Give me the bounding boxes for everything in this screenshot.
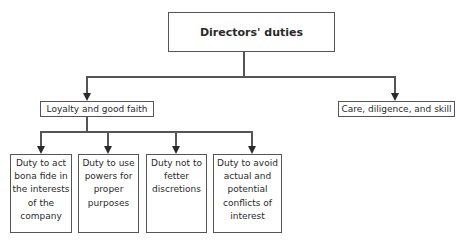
level2-bar [40, 131, 252, 133]
proper-purposes-node: Duty to use powers for proper purposes [78, 154, 139, 233]
loyalty-stem [86, 116, 88, 131]
leaf3-drop [251, 131, 253, 146]
conflicts-node: Duty to avoid actual and potential confl… [213, 154, 282, 233]
arrow-down-icon [104, 146, 112, 154]
care-label: Care, diligence, and skill [341, 104, 451, 114]
root-label: Directors' duties [200, 26, 303, 39]
leaf0-drop [40, 131, 42, 146]
leaf2-drop [175, 131, 177, 146]
loyalty-drop [86, 76, 88, 94]
arrow-down-icon [83, 93, 91, 101]
conflicts-label: Duty to avoid actual and potential confl… [214, 157, 281, 223]
loyalty-label: Loyalty and good faith [47, 104, 148, 114]
care-node: Care, diligence, and skill [338, 101, 455, 117]
proper-purposes-label: Duty to use powers for proper purposes [79, 157, 138, 210]
loyalty-node: Loyalty and good faith [40, 101, 154, 117]
arrow-down-icon [37, 146, 45, 154]
arrow-down-icon [248, 146, 256, 154]
bona-fide-label: Duty to act bona fide in the interests o… [11, 157, 71, 223]
root-node: Directors' duties [168, 12, 335, 52]
root-stem [243, 51, 245, 76]
fetter-discretions-label: Duty not to fetter discretions [147, 157, 206, 197]
bona-fide-node: Duty to act bona fide in the interests o… [10, 154, 72, 233]
arrow-down-icon [391, 93, 399, 101]
fetter-discretions-node: Duty not to fetter discretions [146, 154, 207, 233]
arrow-down-icon [172, 146, 180, 154]
leaf1-drop [107, 131, 109, 146]
level1-bar [86, 76, 395, 78]
care-drop [394, 76, 396, 94]
